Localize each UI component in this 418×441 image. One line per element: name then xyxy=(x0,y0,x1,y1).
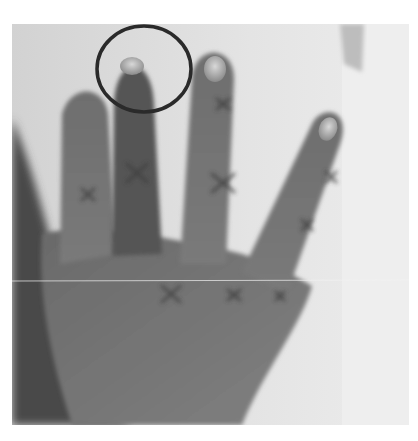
hand-photo xyxy=(12,24,409,425)
figure-caption xyxy=(12,429,412,441)
fingernail-middle xyxy=(204,56,226,82)
finger-little xyxy=(60,92,116,265)
fingernail-ring xyxy=(120,57,144,75)
hand-illustration xyxy=(12,24,409,425)
